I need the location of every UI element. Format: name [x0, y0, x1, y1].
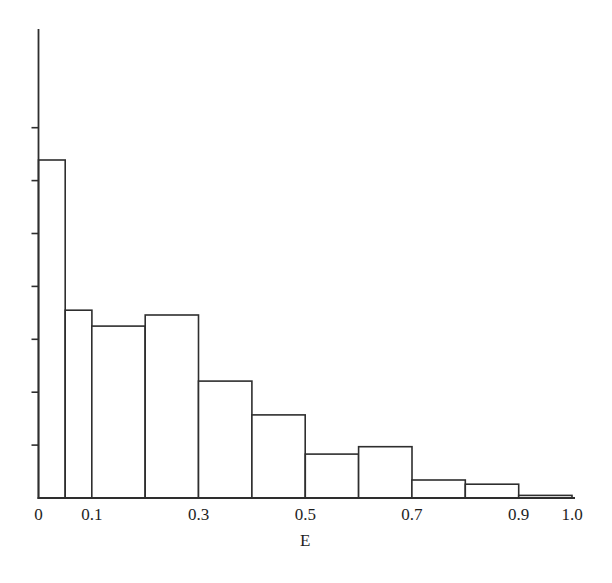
- histogram-plot: 00.10.30.50.70.91.0E: [0, 0, 612, 583]
- histogram-bar: [145, 315, 198, 498]
- histogram-bar: [65, 310, 92, 498]
- histogram-bar: [39, 160, 66, 498]
- histogram-bar: [92, 326, 145, 498]
- histogram-bar: [412, 480, 465, 498]
- x-tick-label: 1.0: [561, 505, 582, 524]
- histogram-bar: [359, 447, 412, 498]
- histogram-figure: 00.10.30.50.70.91.0E: [0, 0, 612, 583]
- x-tick-label: 0.3: [188, 505, 209, 524]
- x-tick-label: 0.9: [508, 505, 529, 524]
- x-tick-label: 0.7: [401, 505, 423, 524]
- histogram-bar: [252, 415, 305, 498]
- x-tick-label: 0.1: [81, 505, 102, 524]
- x-tick-label: 0: [34, 505, 43, 524]
- x-tick-label: 0.5: [295, 505, 316, 524]
- histogram-bar: [465, 484, 518, 498]
- histogram-bar: [199, 381, 252, 498]
- x-axis-label: E: [300, 531, 310, 550]
- histogram-bar: [305, 454, 358, 498]
